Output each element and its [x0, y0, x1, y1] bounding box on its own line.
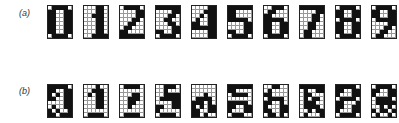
digit-glyph-8: [335, 5, 361, 39]
pixel-cell: [176, 113, 180, 117]
pixel-cell: [392, 34, 396, 38]
pixel-cell: [248, 34, 252, 38]
digit-glyph-7: [299, 5, 325, 39]
pixel-cell: [176, 34, 180, 38]
digit-glyph-8: [335, 84, 361, 118]
pixel-cell: [248, 113, 252, 117]
pixel-cell: [212, 113, 216, 117]
digit-glyph-6: [263, 5, 289, 39]
row-a-glyphs: [47, 5, 397, 39]
pixel-cell: [356, 34, 360, 38]
digit-glyph-2: [119, 5, 145, 39]
pixel-cell: [320, 113, 324, 117]
digit-glyph-9: [371, 5, 397, 39]
digit-glyph-5: [227, 84, 253, 118]
digit-glyph-4: [191, 84, 217, 118]
digit-glyph-0: [47, 5, 73, 39]
digit-glyph-7: [299, 84, 325, 118]
digit-glyph-3: [155, 84, 181, 118]
pixel-cell: [284, 34, 288, 38]
pixel-cell: [140, 113, 144, 117]
digit-glyph-3: [155, 5, 181, 39]
digit-glyph-4: [191, 5, 217, 39]
pixel-cell: [140, 34, 144, 38]
pixel-cell: [68, 34, 72, 38]
digit-glyph-0: [47, 84, 73, 118]
pixel-cell: [104, 34, 108, 38]
pixel-cell: [68, 113, 72, 117]
pixel-cell: [284, 113, 288, 117]
digit-glyph-9: [371, 84, 397, 118]
digit-glyph-2: [119, 84, 145, 118]
pixel-cell: [320, 34, 324, 38]
row-b-label: (b): [19, 86, 30, 96]
pixel-cell: [212, 34, 216, 38]
digit-glyph-6: [263, 84, 289, 118]
pixel-cell: [104, 113, 108, 117]
digit-glyph-1: [83, 84, 109, 118]
digit-glyph-1: [83, 5, 109, 39]
row-b-glyphs: [47, 84, 397, 118]
row-a-label: (a): [19, 8, 30, 18]
pixel-cell: [392, 113, 396, 117]
digit-glyph-5: [227, 5, 253, 39]
pixel-cell: [356, 113, 360, 117]
